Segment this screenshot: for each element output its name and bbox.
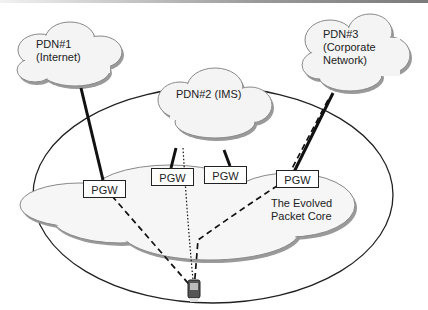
link-pdn1-pgw1 <box>81 88 103 180</box>
pgw-ims-1: PGW <box>151 168 194 186</box>
epc-line2: Packet Core <box>271 210 332 223</box>
pdn3-label: PDN#3 (Corporate Network) <box>323 28 376 67</box>
pgw-corporate: PGW <box>276 170 319 188</box>
epc-label: The Evolved Packet Core <box>271 197 332 223</box>
pdn2-label: PDN#2 (IMS) <box>176 88 241 101</box>
pdn2-name: PDN#2 (IMS) <box>176 88 241 101</box>
pdn3-type-2: Network) <box>323 54 376 67</box>
pdn1-label: PDN#1 (Internet) <box>36 38 81 64</box>
pdn1-type: (Internet) <box>36 51 81 64</box>
epc-line1: The Evolved <box>271 197 332 210</box>
link-pdn2-pgw3 <box>224 150 230 166</box>
pgw-ims-2: PGW <box>204 166 247 184</box>
pdn1-name: PDN#1 <box>36 38 81 51</box>
pdn3-name: PDN#3 <box>323 28 376 41</box>
pdn3-type-1: (Corporate <box>323 41 376 54</box>
pdn2-cloud <box>158 68 274 141</box>
pgw-internet: PGW <box>83 180 126 198</box>
mobile-device-icon <box>188 280 200 302</box>
